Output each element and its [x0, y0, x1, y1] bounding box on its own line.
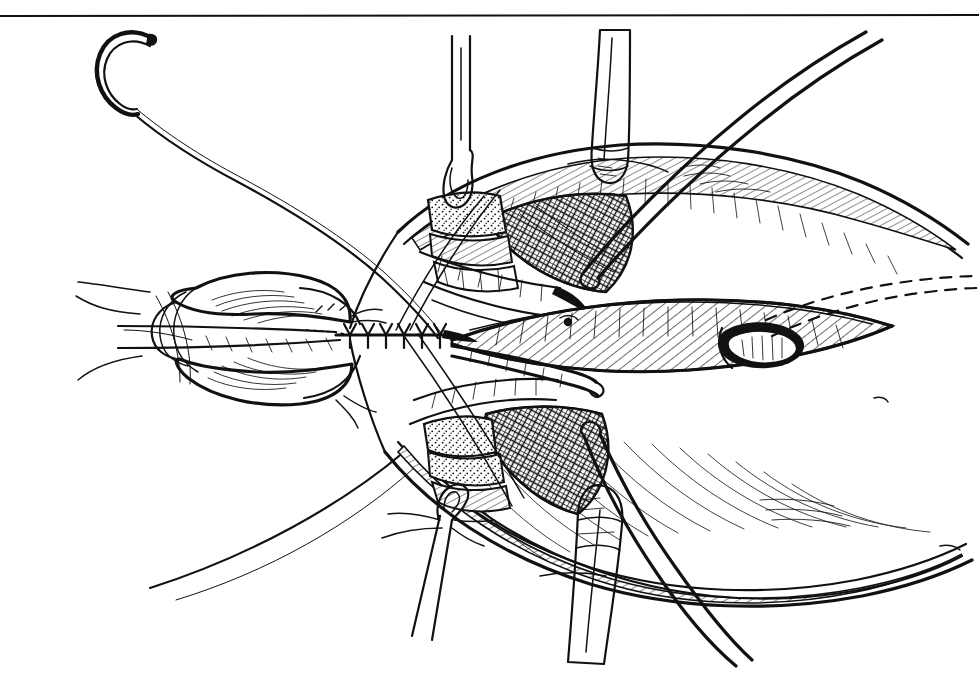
top-rule	[0, 15, 979, 16]
surgical-illustration-figure: Completed end-to-end anastomosis within …	[0, 0, 979, 691]
illustration-canvas	[0, 0, 979, 691]
